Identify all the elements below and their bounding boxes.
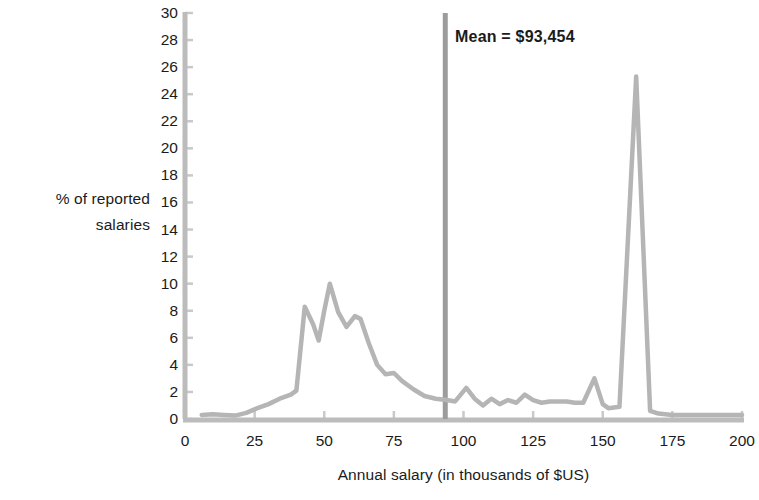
salary-distribution-chart: % of reported salaries Annual salary (in…	[0, 0, 759, 500]
data-series-line	[202, 77, 742, 416]
tick-marks	[185, 13, 742, 420]
plot-area	[0, 0, 759, 500]
